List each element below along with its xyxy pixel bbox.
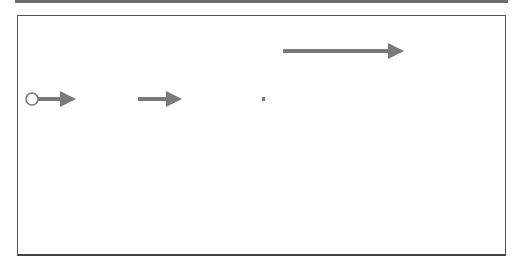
state-diagram xyxy=(0,0,523,272)
start-node xyxy=(26,93,38,105)
